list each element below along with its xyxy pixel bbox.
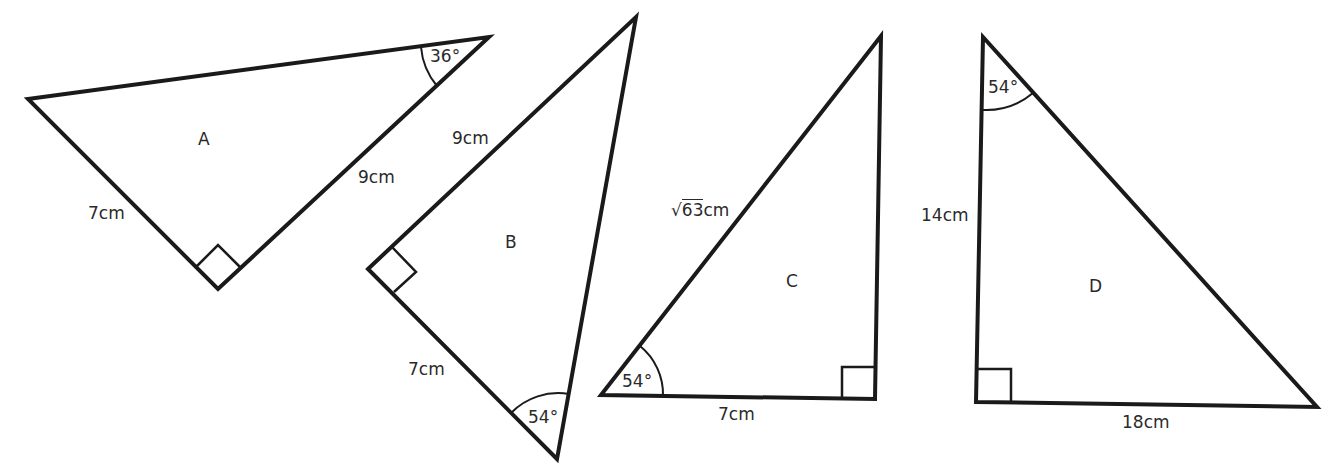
triangle-c-name: C: [786, 273, 798, 290]
sqrt-radicand: 63: [682, 199, 704, 220]
triangle-b-angle: 54°: [528, 409, 558, 426]
triangle-b-side-1: 9cm: [452, 130, 489, 147]
triangle-a: [28, 37, 489, 289]
sqrt-unit: cm: [703, 200, 729, 220]
triangle-b-name: B: [505, 234, 517, 251]
triangle-shapes: [0, 0, 1339, 475]
triangle-d-name: D: [1089, 278, 1102, 295]
sqrt-symbol: √: [671, 202, 682, 219]
triangle-d-side-2: 18cm: [1122, 414, 1170, 431]
triangle-c-angle: 54°: [622, 373, 652, 390]
triangle-a-side-2: 9cm: [358, 169, 395, 186]
triangle-b-side-2: 7cm: [408, 361, 445, 378]
triangle-a-angle: 36°: [430, 48, 460, 65]
triangle-d-angle: 54°: [988, 79, 1018, 96]
triangles-diagram: A 7cm 9cm 36° B 9cm 7cm 54° C √63cm 7cm …: [0, 0, 1339, 475]
triangle-d: [976, 37, 1317, 407]
triangle-a-name: A: [198, 131, 210, 148]
triangle-a-side-1: 7cm: [88, 205, 125, 222]
triangle-c: [601, 36, 881, 399]
triangle-c-side-1: √63cm: [671, 202, 729, 219]
triangle-c-side-2: 7cm: [718, 406, 755, 423]
triangle-b: [368, 17, 636, 459]
triangle-d-side-1: 14cm: [921, 207, 969, 224]
